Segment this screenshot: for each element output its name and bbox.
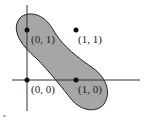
label-0-1: (0, 1) (31, 33, 55, 46)
point-0-1 (25, 28, 30, 33)
label-0-0: (0, 0) (31, 83, 55, 96)
corner-mark: w (3, 113, 6, 118)
shaded-region (16, 14, 107, 110)
label-1-0: (1, 0) (78, 83, 102, 96)
point-0-0 (25, 78, 30, 83)
label-1-1: (1, 1) (78, 33, 102, 46)
xor-diagram: (0, 1) (1, 1) (0, 0) (1, 0) w (0, 0, 148, 121)
point-1-0 (74, 78, 79, 83)
point-1-1 (74, 28, 79, 33)
